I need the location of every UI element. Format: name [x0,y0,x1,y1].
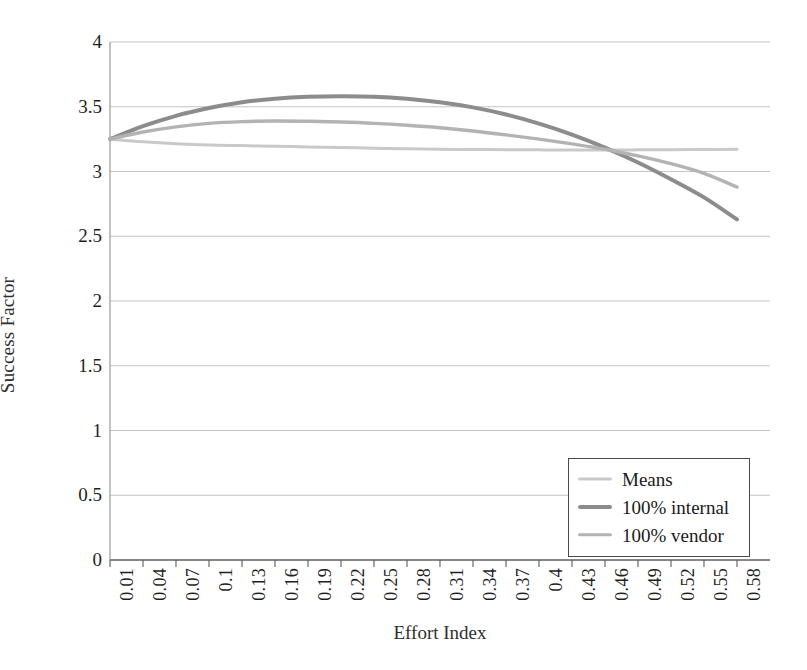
x-axis-tick-label: 0.1 [216,568,237,591]
x-axis-tick-label: 0.31 [447,568,468,601]
y-axis-tick-label: 3 [56,161,102,183]
x-axis-tick-label: 0.52 [678,568,699,601]
data-series-group [110,96,737,219]
x-axis-tick-label: 0.19 [315,568,336,601]
chart-legend: Means100% internal100% vendor [568,458,750,557]
x-axis-tick-label: 0.01 [117,568,138,601]
y-axis-title-label: Success Factor [0,277,19,393]
x-axis-tick-label: 0.37 [513,568,534,601]
x-axis-tick-label: 0.49 [645,568,666,601]
y-axis-tick-label: 3.5 [56,96,102,118]
line-chart: Success Factor 00.511.522.533.54 0.010.0… [0,0,807,670]
x-axis-tick-label: 0.04 [150,568,171,601]
series-line [110,121,737,187]
legend-item: 100% internal [578,493,740,521]
legend-item-label: Means [622,470,673,489]
legend-item-label: 100% vendor [622,526,724,545]
x-axis-tick-label: 0.55 [711,568,732,601]
x-axis-tick-label: 0.46 [612,568,633,601]
y-axis-tick-label: 0.5 [56,484,102,506]
legend-line-swatch-icon [578,474,612,484]
legend-line-swatch-icon [578,502,612,512]
legend-item: Means [578,465,740,493]
x-axis-tick-label: 0.34 [480,568,501,601]
x-axis-tick-label: 0.22 [348,568,369,601]
legend-item-label: 100% internal [622,498,729,517]
y-axis-tick-label: 1 [56,420,102,442]
x-axis-tick-label: 0.13 [249,568,270,601]
y-axis-tick-labels: 00.511.522.533.54 [52,0,102,670]
x-axis-tick-label: 0.16 [282,568,303,601]
y-axis-tick-label: 4 [56,31,102,53]
y-axis-tick-label: 1.5 [56,355,102,377]
y-axis-tick-label: 2 [56,290,102,312]
y-axis-tick-label: 0 [56,549,102,571]
y-axis-tick-label: 2.5 [56,225,102,247]
x-axis-title: Effort Index [110,622,770,644]
x-axis-tick-label: 0.58 [744,568,765,601]
x-axis-tick-label: 0.25 [381,568,402,601]
x-axis-title-label: Effort Index [393,622,486,643]
x-axis-tick-label: 0.4 [546,568,567,591]
x-axis-tick-label: 0.43 [579,568,600,601]
x-axis-tick-label: 0.28 [414,568,435,601]
legend-item: 100% vendor [578,521,740,549]
series-line [110,139,737,150]
x-axis-tick-label: 0.07 [183,568,204,601]
legend-line-swatch-icon [578,530,612,540]
